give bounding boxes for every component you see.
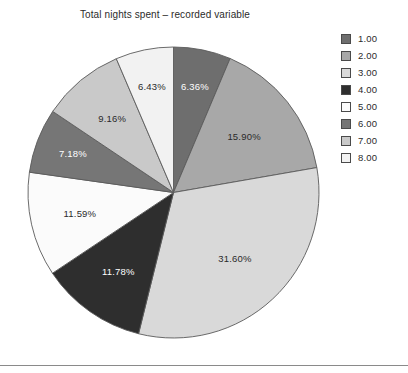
legend-item-label: 1.00 <box>358 34 377 44</box>
legend-item[interactable]: 5.00 <box>341 98 403 115</box>
legend-color-swatch <box>341 51 351 61</box>
pie-slice-label: 6.36% <box>181 81 209 92</box>
pie-slice-label: 31.60% <box>218 253 252 264</box>
legend-color-swatch <box>341 153 351 163</box>
pie-slice-label: 11.78% <box>102 266 135 277</box>
pie-slice-label: 15.90% <box>227 131 261 142</box>
legend-item[interactable]: 1.00 <box>341 30 403 47</box>
chart-page: Total nights spent – recorded variable 6… <box>0 0 408 373</box>
legend-item[interactable]: 3.00 <box>341 64 403 81</box>
legend-item-label: 4.00 <box>358 85 377 95</box>
legend-item-label: 7.00 <box>358 136 377 146</box>
pie-slice-label: 9.16% <box>98 113 126 124</box>
legend: 1.002.003.004.005.006.007.008.00 <box>341 30 403 166</box>
legend-item[interactable]: 2.00 <box>341 47 403 64</box>
legend-item-label: 5.00 <box>358 102 377 112</box>
legend-item-label: 6.00 <box>358 119 377 129</box>
legend-color-swatch <box>341 85 351 95</box>
legend-color-swatch <box>341 34 351 44</box>
legend-color-swatch <box>341 102 351 112</box>
chart-title: Total nights spent – recorded variable <box>0 9 330 20</box>
legend-color-swatch <box>341 119 351 129</box>
bottom-divider <box>0 365 408 366</box>
legend-color-swatch <box>341 68 351 78</box>
pie-slice-group <box>28 47 319 338</box>
pie-slice-label: 11.59% <box>64 208 97 219</box>
legend-item[interactable]: 6.00 <box>341 115 403 132</box>
pie-chart-svg: 6.36%15.90%31.60%11.78%11.59%7.18%9.16%6… <box>27 46 320 339</box>
legend-item[interactable]: 7.00 <box>341 132 403 149</box>
legend-item-label: 3.00 <box>358 68 377 78</box>
pie-slice-label: 7.18% <box>59 148 87 159</box>
legend-item[interactable]: 8.00 <box>341 149 403 166</box>
legend-item-label: 8.00 <box>358 153 377 163</box>
legend-color-swatch <box>341 136 351 146</box>
legend-item[interactable]: 4.00 <box>341 81 403 98</box>
pie-chart: 6.36%15.90%31.60%11.78%11.59%7.18%9.16%6… <box>27 46 320 339</box>
pie-slice-label: 6.43% <box>138 81 166 92</box>
legend-item-label: 2.00 <box>358 51 377 61</box>
